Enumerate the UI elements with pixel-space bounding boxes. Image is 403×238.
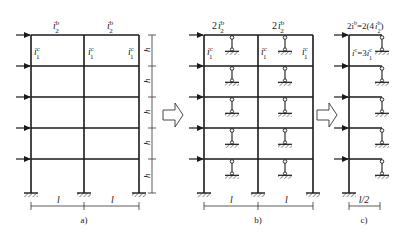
svg-text:l: l — [57, 194, 60, 205]
story-height-dimension: h h h h h — [142, 35, 156, 193]
beams — [31, 35, 139, 159]
transition-arrow-icon — [317, 103, 337, 127]
beam-label: 2ib2 — [272, 19, 285, 35]
column-label: ic1 — [302, 45, 308, 61]
fixed-support-icon — [342, 193, 356, 197]
lateral-load-arrows — [189, 35, 203, 159]
panel-caption: c) — [361, 215, 368, 225]
end-support-icons — [375, 36, 389, 179]
beam-label: ib2 — [53, 19, 60, 35]
svg-text:h: h — [142, 140, 152, 145]
svg-text:h: h — [142, 109, 152, 114]
beam-label: ib2 — [107, 19, 114, 35]
panel-a: ib2 ib2 ic1 ic1 ic1 h h h h h l l — [16, 19, 156, 225]
svg-text:h: h — [142, 47, 152, 52]
column-label: ic=3ic1 — [352, 47, 372, 61]
svg-text:h: h — [142, 173, 152, 178]
lateral-load-arrows — [334, 35, 348, 159]
fixed-support-icons — [197, 193, 320, 197]
svg-text:h: h — [142, 78, 152, 83]
lateral-load-arrows — [16, 35, 30, 159]
frame-simplification-diagram: ib2 ib2 ic1 ic1 ic1 h h h h h l l — [0, 0, 403, 238]
transition-arrow-icon — [163, 103, 183, 127]
svg-text:l: l — [285, 194, 288, 205]
column-label: ic1 — [34, 45, 40, 61]
panel-c: 2ib=2(4ib2) ic=3ic1 l/2 c) — [334, 20, 389, 225]
svg-text:l: l — [111, 194, 114, 205]
fixed-support-icons — [24, 193, 146, 197]
beam-label: 2ib=2(4ib2) — [347, 20, 384, 34]
svg-text:l: l — [230, 194, 233, 205]
column-label: ic1 — [207, 45, 213, 61]
beam-label: 2ib2 — [212, 19, 225, 35]
column-label: ic1 — [88, 45, 94, 61]
panel-caption: b) — [254, 215, 262, 225]
svg-text:l/2: l/2 — [359, 194, 370, 205]
column-label: ic1 — [261, 45, 267, 61]
panel-caption: a) — [81, 215, 88, 225]
column-label: ic1 — [128, 45, 134, 61]
panel-b: 2ib2 2ib2 ic1 ic1 ic1 l l b) — [189, 19, 320, 225]
